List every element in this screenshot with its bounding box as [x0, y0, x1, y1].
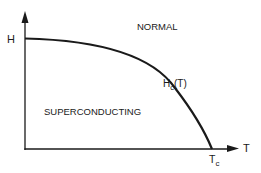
curve-label-main: H	[163, 78, 170, 89]
curve-label-suffix: (T)	[174, 78, 187, 89]
region-label-normal: NORMAL	[137, 21, 178, 32]
x-axis-arrowhead	[227, 145, 239, 152]
x-axis-label: T	[243, 142, 250, 154]
critical-temperature-label: Tc	[209, 153, 219, 168]
phase-diagram: H T NORMAL SUPERCONDUCTING Hc(T) Tc	[0, 0, 261, 173]
y-axis-label: H	[7, 33, 15, 45]
tc-label-sub: c	[215, 159, 219, 168]
critical-field-curve	[25, 39, 212, 150]
region-label-superconducting: SUPERCONDUCTING	[44, 106, 141, 117]
y-axis-arrowhead	[22, 11, 29, 23]
